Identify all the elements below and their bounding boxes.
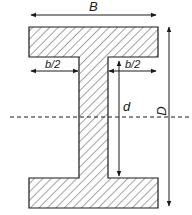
left-half-flange-label: b/2 bbox=[45, 58, 60, 70]
right-half-flange-label: b/2 bbox=[125, 58, 140, 70]
overall-depth-label: D bbox=[154, 106, 169, 115]
web-depth-label: d bbox=[123, 99, 131, 114]
overall-width-label: B bbox=[89, 0, 98, 14]
i-section-diagram: B b/2 b/2 d D bbox=[0, 0, 192, 215]
